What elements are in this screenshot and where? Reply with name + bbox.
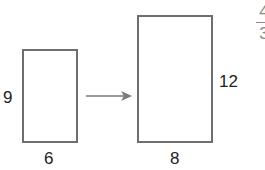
scaled-rectangle (137, 15, 213, 143)
fraction-numerator: 4 (257, 3, 265, 20)
original-width-label: 6 (44, 150, 53, 167)
scaled-width-label: 8 (170, 150, 179, 167)
fraction-denominator: 3 (257, 25, 265, 42)
original-height-label: 9 (3, 89, 12, 106)
original-rectangle (22, 49, 78, 143)
fraction-bar (256, 22, 265, 23)
scaled-height-label: 12 (219, 73, 238, 90)
right-arrow-icon (85, 89, 135, 103)
